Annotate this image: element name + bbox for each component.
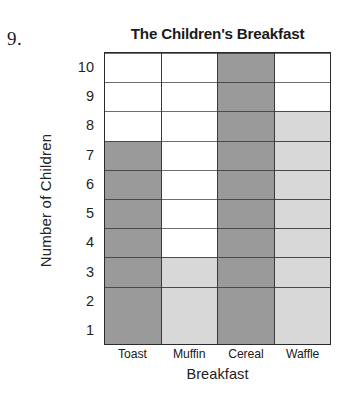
x-tick-label-muffin: Muffin [161,347,218,361]
bar-cell [162,53,218,82]
x-tick-label-toast: Toast [104,347,161,361]
x-tick-label-cereal: Cereal [218,347,275,361]
bar-cell [162,141,218,170]
bar-cell [218,141,274,170]
y-tick-label-5: 5 [60,199,100,228]
y-tick-label-3: 3 [60,257,100,286]
bar-cell [105,257,161,286]
bar-cell [162,316,218,344]
bar-column-toast [105,53,162,344]
bar-cell [162,228,218,257]
bar-cell [162,199,218,228]
y-tick-label-7: 7 [60,140,100,169]
bar-cell [162,287,218,316]
plot-area [104,52,331,345]
bar-cell [275,141,331,170]
bar-cell [275,199,331,228]
bar-cell [105,316,161,344]
bar-cell [218,111,274,140]
bar-cell [162,170,218,199]
bar-cell [275,53,331,82]
y-tick-label-6: 6 [60,169,100,198]
x-axis-title: Breakfast [104,366,331,382]
x-axis-tick-labels: ToastMuffinCerealWaffle [104,347,331,361]
bar-cell [162,82,218,111]
chart-figure: 9. The Children's Breakfast Number of Ch… [0,0,339,395]
bar-column-muffin [162,53,219,344]
bar-cell [105,170,161,199]
question-number: 9. [7,28,22,50]
bar-cell [275,257,331,286]
bar-cell [105,111,161,140]
bar-cell [105,228,161,257]
bar-cell [275,82,331,111]
bar-cell [218,170,274,199]
bar-cell [218,82,274,111]
bar-cell [162,257,218,286]
y-tick-label-8: 8 [60,111,100,140]
bar-cell [275,287,331,316]
bar-cell [275,111,331,140]
bar-cell [218,316,274,344]
bar-cell [275,170,331,199]
bar-cell [218,287,274,316]
y-tick-label-2: 2 [60,286,100,315]
bar-cell [218,228,274,257]
y-axis-tick-labels: 12345678910 [60,52,100,345]
y-tick-label-10: 10 [60,52,100,81]
bar-cell [105,82,161,111]
x-tick-label-waffle: Waffle [274,347,331,361]
bar-cell [162,111,218,140]
bar-cell [275,228,331,257]
bar-cell [218,257,274,286]
bar-cell [105,199,161,228]
y-axis-title: Number of Children [37,101,54,301]
y-tick-label-9: 9 [60,81,100,110]
bar-cell [105,141,161,170]
bar-column-cereal [218,53,275,344]
bar-column-waffle [275,53,331,344]
bar-cell [218,199,274,228]
bar-cell [105,287,161,316]
y-tick-label-1: 1 [60,316,100,345]
bar-cell [105,53,161,82]
bar-cell [218,53,274,82]
y-tick-label-4: 4 [60,228,100,257]
bar-cell [275,316,331,344]
chart-title: The Children's Breakfast [104,25,331,42]
